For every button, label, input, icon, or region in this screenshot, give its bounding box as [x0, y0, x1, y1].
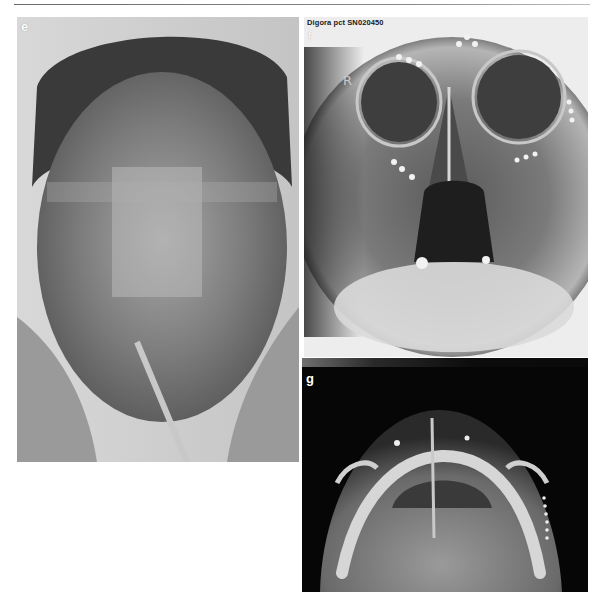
panel-label-e: e [21, 20, 28, 33]
radiograph-caption: Digora pct SN020450 [307, 18, 384, 27]
page-header-rule [14, 4, 590, 5]
figure-panel-g-smv-radiograph: g [302, 358, 588, 592]
figure-panel-e-clinical-photo: e [17, 17, 299, 462]
clinical-photo-placeholder [17, 17, 299, 462]
panel-label-g: g [306, 372, 314, 385]
side-marker-right: R [343, 73, 352, 88]
figure-panel-f-pa-radiograph: Digora pct SN020450 f R [304, 17, 588, 357]
submentovertex-radiograph [302, 358, 588, 592]
pa-skull-radiograph [304, 17, 588, 357]
panel-label-f: f [308, 30, 311, 42]
radiograph-header-strip [302, 358, 588, 367]
